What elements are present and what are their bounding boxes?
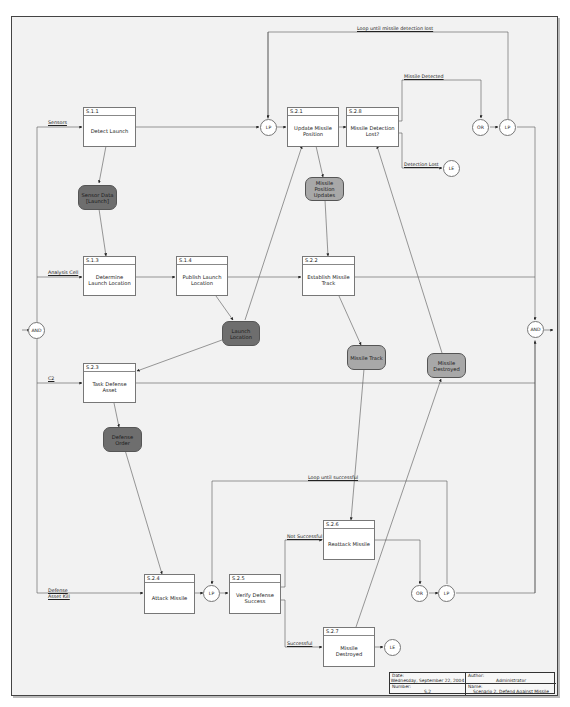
junction-lp-bottom-end[interactable]: LP <box>438 585 455 602</box>
process-reattack-missile[interactable]: S.2.6 Reattack Missile <box>323 520 375 560</box>
process-label: Determine Launch Location <box>84 264 135 295</box>
edge-label-successful: Successful <box>287 641 312 647</box>
process-establish-missile-track[interactable]: S.2.2 Establish Missile Track <box>302 256 355 296</box>
process-missile-destroyed[interactable]: S.2.7 Missile Destroyed <box>323 627 375 667</box>
process-determine-launch-location[interactable]: S.1.3 Determine Launch Location <box>83 256 136 296</box>
junction-lp-top-start[interactable]: LP <box>260 119 277 136</box>
process-label: Missile Destroyed <box>324 635 374 666</box>
edge-label-detection-lost: Detection Lost <box>404 162 439 168</box>
process-label: Reattack Missile <box>324 528 374 559</box>
process-label: Establish Missile Track <box>303 264 354 295</box>
junction-or-top[interactable]: OR <box>472 119 489 136</box>
title-block-date: Date: Wednesday, September 22, 2004 <box>390 673 466 684</box>
number-value: S.2 <box>390 689 465 694</box>
item-sensor-data[interactable]: Sensor Data [Launch] <box>78 185 117 210</box>
process-label: Task Defense Asset <box>84 371 135 402</box>
junction-le-top[interactable]: LE <box>443 160 460 177</box>
junction-le-bottom[interactable]: LE <box>384 639 401 656</box>
process-update-missile-position[interactable]: S.2.1 Update Missile Position <box>287 107 339 147</box>
date-value: Wednesday, September 22, 2004 <box>390 678 465 683</box>
title-block: Date: Wednesday, September 22, 2004 Auth… <box>389 672 555 694</box>
process-verify-defense-success[interactable]: S.2.5 Verify Defense Success <box>229 574 281 614</box>
author-value: Administrator <box>466 678 556 683</box>
process-label: Update Missile Position <box>288 115 338 146</box>
title-block-name: Name: Scenario 2. Defend Against Missile <box>466 684 556 695</box>
process-publish-launch-location[interactable]: S.1.4 Publish Launch Location <box>176 256 228 296</box>
junction-lp-bottom-start[interactable]: LP <box>203 585 220 602</box>
process-detect-launch[interactable]: S.1.1 Detect Launch <box>83 107 136 147</box>
process-label: Missile Detection Lost? <box>347 115 398 146</box>
edge-label-not-successful: Not Successful <box>287 534 322 540</box>
process-label: Verify Defense Success <box>230 582 280 613</box>
edge-label-analysis-cell: Analysis Cell <box>48 270 78 276</box>
junction-or-bottom[interactable]: OR <box>411 585 428 602</box>
edge-label-loop-detection: Loop until missile detection lost <box>357 26 433 32</box>
process-label: Attack Missile <box>145 582 194 613</box>
item-missile-track[interactable]: Missile Track <box>347 345 386 370</box>
item-missile-position-updates[interactable]: Missile Position Updates <box>305 177 344 201</box>
title-block-number: Number: S.2 <box>390 684 466 695</box>
process-label: Detect Launch <box>84 115 135 146</box>
process-task-defense-asset[interactable]: S.2.3 Task Defense Asset <box>83 363 136 403</box>
edge-label-loop-successful: Loop until successful <box>308 475 358 481</box>
junction-and-right[interactable]: AND <box>527 321 544 338</box>
junction-lp-top-end[interactable]: LP <box>499 119 516 136</box>
item-defense-order[interactable]: Defense Order <box>103 427 142 452</box>
process-attack-missile[interactable]: S.2.4 Attack Missile <box>144 574 195 614</box>
edge-label-c2: C2 <box>48 376 54 382</box>
name-value: Scenario 2. Defend Against Missile <box>466 689 556 694</box>
item-launch-location[interactable]: Launch Location <box>222 321 260 346</box>
process-label: Publish Launch Location <box>177 264 227 295</box>
edge-label-defense-asset-kill: Defense Asset Kill <box>48 588 72 600</box>
edge-label-sensors: Sensors <box>48 120 67 126</box>
junction-and-left[interactable]: AND <box>28 322 45 339</box>
edge-label-missile-detected: Missile Detected <box>404 74 444 80</box>
title-block-author: Author: Administrator <box>466 673 556 684</box>
process-missile-detection-lost[interactable]: S.2.8 Missile Detection Lost? <box>346 107 399 147</box>
item-missile-destroyed[interactable]: Missile Destroyed <box>427 353 466 378</box>
